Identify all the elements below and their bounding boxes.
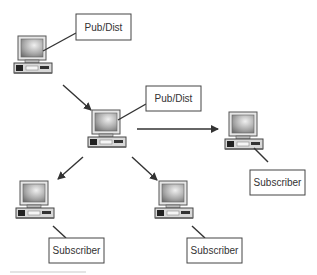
node-label: Subscriber <box>254 177 302 188</box>
computer-icon <box>88 110 126 147</box>
computer-icon <box>14 36 52 73</box>
pubsub-diagram: Pub/Dist Pub/Dist Subscriber Subscriber … <box>0 0 317 275</box>
node-label: Subscriber <box>191 245 239 256</box>
node-subscriber-right: Subscriber <box>225 112 305 195</box>
label-connector <box>53 226 66 238</box>
label-connector <box>254 148 268 162</box>
computer-icon <box>16 181 54 218</box>
label-connector <box>192 226 205 238</box>
edge-n2-n5 <box>132 157 157 180</box>
computer-icon <box>155 181 193 218</box>
edge-n2-n4 <box>58 157 83 179</box>
edge-n1-n2 <box>63 85 91 110</box>
node-pubdist-2: Pub/Dist <box>88 86 201 147</box>
node-pubdist-1: Pub/Dist <box>14 14 131 73</box>
node-label: Pub/Dist <box>155 93 193 104</box>
node-subscriber-left: Subscriber <box>16 181 104 263</box>
label-connector <box>43 33 76 51</box>
node-label: Subscriber <box>53 245 101 256</box>
node-subscriber-middle: Subscriber <box>155 181 242 263</box>
computer-icon <box>225 112 263 149</box>
node-label: Pub/Dist <box>85 22 123 33</box>
label-connector <box>118 104 146 120</box>
